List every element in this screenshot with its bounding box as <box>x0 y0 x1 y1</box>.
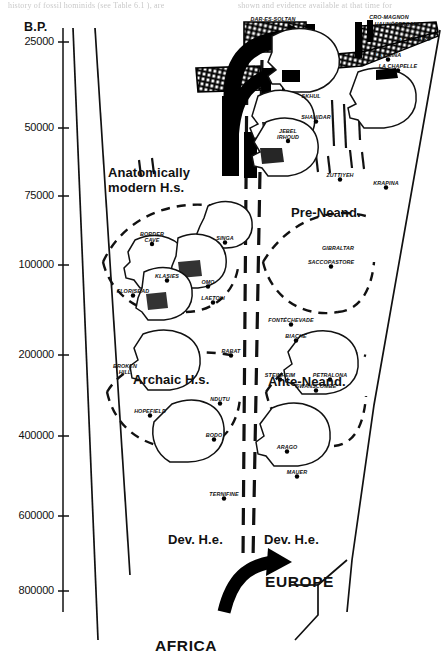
y-tick-400000: 400000 <box>0 429 54 441</box>
site-label-mauer: MAUER <box>287 469 307 475</box>
site-label-jebel-irhoud: JEBELIRHOUD <box>277 128 299 140</box>
site-label-zuttiyeh: ZUTTIYEH <box>326 172 353 178</box>
site-label-la-chapelle: LA CHAPELLE <box>379 63 418 69</box>
site-label-laetoli: LAETOLI <box>201 295 225 301</box>
skull-arago <box>256 403 330 466</box>
site-label-st-cesaire: ST CÉSAIRE <box>397 36 430 42</box>
y-tick-75000: 75000 <box>0 189 54 201</box>
site-label-ndutu: NDUTU <box>210 396 229 402</box>
site-label-singa: SINGA <box>216 235 234 241</box>
site-label-ternifine: TERNIFINE <box>209 491 238 497</box>
site-label-petralona: PETRALONA <box>313 372 347 378</box>
site-label-swanscombe: SWANSCOMBE <box>296 383 337 389</box>
zone-label-dev-he-africa: Dev. H.e. <box>168 533 223 547</box>
y-tick-50000: 50000 <box>0 121 54 133</box>
site-label-arago: ARAGO <box>277 444 298 450</box>
site-label-biache: BIACHE <box>285 333 306 339</box>
site-label-omo: OMO <box>201 279 214 285</box>
zone-label-anatomically-modern: Anatomicallymodern H.s. <box>108 165 190 195</box>
zone-label-archaic-hs: Archaic H.s. <box>133 373 209 387</box>
phylogeny-diagram-svg <box>0 0 445 669</box>
y-tick-100000: 100000 <box>0 258 54 270</box>
site-label-shanidar: SHANIDAR <box>301 114 330 120</box>
site-label-steinheim: STEINHEIM <box>265 372 295 378</box>
site-label-gibraltar: GIBRALTAR <box>322 245 354 251</box>
figure-canvas: history of fossil hominids (see Table 6.… <box>0 0 445 669</box>
region-label-africa: AFRICA <box>155 637 217 655</box>
site-label-saccopastore: SACCOPASTORE <box>308 259 354 265</box>
site-label-krapina: KRAPINA <box>373 180 398 186</box>
site-label-bodo: BODO <box>206 432 223 438</box>
region-label-europe: EUROPE <box>265 573 334 591</box>
site-label-cro-magnon: CRO-MAGNON <box>369 14 408 20</box>
site-label-hahnofersand: HAHNÖFERSAND <box>374 21 421 27</box>
y-tick-800000: 800000 <box>0 584 54 596</box>
site-label-broken-hill: BROKENHILL <box>113 363 137 375</box>
y-tick-200000: 200000 <box>0 348 54 360</box>
zone-label-dev-he-europe: Dev. H.e. <box>264 533 319 547</box>
site-label-klasies: KLASIES <box>155 273 179 279</box>
site-label-fontechevade: FONTÉCHEVADE <box>268 317 313 323</box>
y-tick-600000: 600000 <box>0 509 54 521</box>
skull-la-chapelle <box>348 68 416 128</box>
site-label-border-cave: BORDERCAVE <box>140 231 164 243</box>
y-axis <box>58 28 69 612</box>
site-label-rabat: RABAT <box>222 348 241 354</box>
y-tick-25000: 25000 <box>0 35 54 47</box>
site-label-hopefield: HOPEFIELD <box>134 408 166 414</box>
skull-group <box>124 29 416 466</box>
y-axis-title: B.P. <box>24 20 48 34</box>
zone-label-pre-neanderthal: Pre-Neand. <box>291 206 361 220</box>
site-label-florisbad: FLORISBAD <box>117 288 149 294</box>
site-label-la-quina: LA QUINA <box>375 52 402 58</box>
skull-skhul <box>268 29 339 92</box>
site-label-dar-es-soltan: DAR-ES-SOLTAN <box>250 16 295 22</box>
site-label-skhul: SKHUL <box>301 93 320 99</box>
